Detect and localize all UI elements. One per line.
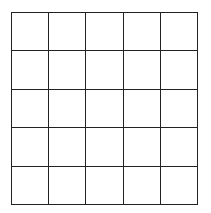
grid-cell-r1-c2 [48, 12, 85, 50]
empty-5x5-grid [11, 12, 198, 205]
grid-cell-r4-c4 [123, 127, 160, 165]
grid-cell-r5-c2 [48, 166, 85, 204]
grid-cell-r1-c3 [85, 12, 122, 50]
grid-cell-r1-c5 [160, 12, 197, 50]
grid-cell-r2-c5 [160, 50, 197, 88]
grid-cell-r2-c4 [123, 50, 160, 88]
grid-cell-r4-c1 [11, 127, 48, 165]
grid-cell-r3-c1 [11, 89, 48, 127]
grid-cell-r5-c4 [123, 166, 160, 204]
grid-cell-r3-c4 [123, 89, 160, 127]
grid-cell-r2-c2 [48, 50, 85, 88]
grid-cell-r2-c1 [11, 50, 48, 88]
grid-cell-r4-c5 [160, 127, 197, 165]
grid-cell-r2-c3 [85, 50, 122, 88]
grid-cell-r3-c5 [160, 89, 197, 127]
grid-cell-r4-c2 [48, 127, 85, 165]
grid-cell-r1-c4 [123, 12, 160, 50]
grid-cell-r3-c3 [85, 89, 122, 127]
grid-cell-r5-c3 [85, 166, 122, 204]
grid-cell-r5-c1 [11, 166, 48, 204]
grid-cell-r1-c1 [11, 12, 48, 50]
grid-cell-r4-c3 [85, 127, 122, 165]
grid-cell-r5-c5 [160, 166, 197, 204]
grid-cell-r3-c2 [48, 89, 85, 127]
